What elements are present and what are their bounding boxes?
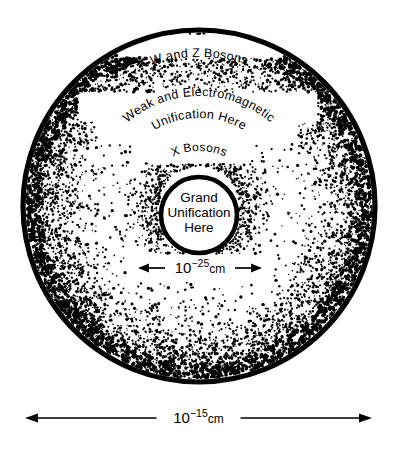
unification-diagram: W and Z Bosons Weak and Electromagnetic … xyxy=(0,0,397,452)
outer-scale-label: 10−15cm xyxy=(173,407,224,426)
inner-scale-label: 10−25cm xyxy=(175,257,226,276)
core-label-line2: Unification xyxy=(167,205,230,220)
core-label-line3: Here xyxy=(184,220,213,235)
inner-arrowhead-right-icon xyxy=(251,263,262,272)
outer-scale-measure: 10−15cm xyxy=(25,407,372,426)
outer-arrowhead-right-icon xyxy=(359,413,372,422)
label-weak-em-unification-line2: Unification Here xyxy=(149,107,249,133)
inner-scale-measure: 10−25cm xyxy=(138,257,262,276)
label-x-bosons: X Bosons xyxy=(169,140,229,159)
label-w-and-z-bosons: W and Z Bosons xyxy=(148,46,249,68)
inner-arrowhead-left-icon xyxy=(138,263,149,272)
core-label-line1: Grand xyxy=(180,190,218,205)
diagram-canvas: W and Z Bosons Weak and Electromagnetic … xyxy=(0,0,397,452)
outer-arrowhead-left-icon xyxy=(25,413,38,422)
